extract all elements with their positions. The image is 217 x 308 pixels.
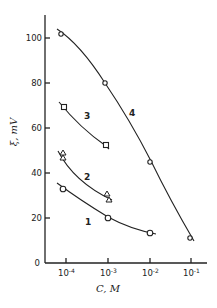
curve-4	[57, 29, 194, 241]
data-point	[59, 32, 63, 36]
y-tick-labels: 100 80 60 40 20 0	[26, 33, 42, 268]
y-tick-label: 100	[26, 33, 42, 43]
x-tick-label: 10-4	[58, 267, 75, 278]
curve-label-3: 3	[84, 111, 90, 121]
y-tick-label: 80	[31, 78, 42, 88]
curve-label-4: 4	[129, 108, 135, 118]
y-tick-label: 0	[35, 258, 40, 268]
x-tick-label: 10-1	[183, 267, 200, 278]
x-tick-label: 10-2	[142, 267, 159, 278]
curve-label-2: 2	[84, 172, 90, 182]
x-tick-label: 10-3	[100, 267, 117, 278]
curve-label-1: 1	[85, 217, 91, 227]
data-point	[60, 186, 66, 192]
data-point	[148, 160, 152, 164]
y-tick-label: 60	[31, 123, 42, 133]
y-axis-title: ξ, mV	[8, 116, 19, 146]
data-point	[62, 105, 67, 110]
curve-1	[57, 183, 156, 234]
y-tick-label: 40	[31, 168, 42, 178]
data-point	[104, 191, 110, 196]
data-point	[105, 215, 111, 221]
data-point	[147, 230, 153, 236]
data-point	[104, 143, 109, 148]
data-point	[103, 81, 107, 85]
x-tick-labels: 10-4 10-3 10-2 10-1	[58, 267, 200, 278]
data-point	[188, 236, 192, 240]
y-tick-label: 20	[31, 213, 42, 223]
curves	[57, 29, 194, 241]
zeta-potential-chart: 100 80 60 40 20 0 10-4 10-3 10-2 10-1 C,…	[0, 0, 217, 308]
markers-curve-4	[59, 32, 192, 240]
x-axis-title: C, M	[96, 283, 121, 294]
